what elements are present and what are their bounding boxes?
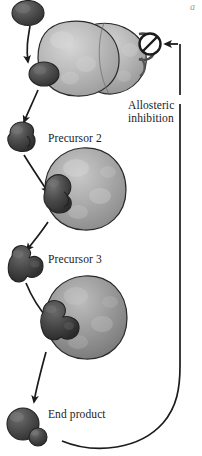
arrow-enzyme3-to-endproduct xyxy=(34,352,46,402)
enzyme1-active-site xyxy=(29,62,59,86)
substrate-molecule xyxy=(12,1,44,26)
enzyme2-active-site xyxy=(44,175,71,213)
label-precursor-2: Precursor 2 xyxy=(48,132,102,145)
allosteric-line-2: inhibition xyxy=(128,112,174,124)
figure-corner-mark: a xyxy=(190,1,195,14)
label-allosteric-inhibition: Allosteric inhibition xyxy=(128,99,198,124)
arrow-enzyme1-to-precursor2 xyxy=(24,90,38,122)
enzyme-one xyxy=(29,21,155,96)
arrow-precursor2-to-enzyme2 xyxy=(24,155,48,192)
label-precursor-3: Precursor 3 xyxy=(48,253,102,266)
arrow-substrate-to-enzyme1 xyxy=(27,26,30,62)
enzyme-two xyxy=(44,148,126,230)
enzyme-three xyxy=(41,276,127,359)
diagram-artwork xyxy=(0,0,202,456)
precursor-3-molecule xyxy=(8,246,43,282)
no-entry-symbol xyxy=(140,34,161,55)
arrow-enzyme2-to-precursor3 xyxy=(27,222,48,250)
feedback-inhibition-diagram: Precursor 2 Precursor 3 End product Allo… xyxy=(0,0,202,456)
precursor-2-molecule xyxy=(8,122,35,151)
label-end-product: End product xyxy=(48,408,106,421)
allosteric-line-1: Allosteric xyxy=(128,99,174,111)
end-product-molecule xyxy=(7,408,47,446)
